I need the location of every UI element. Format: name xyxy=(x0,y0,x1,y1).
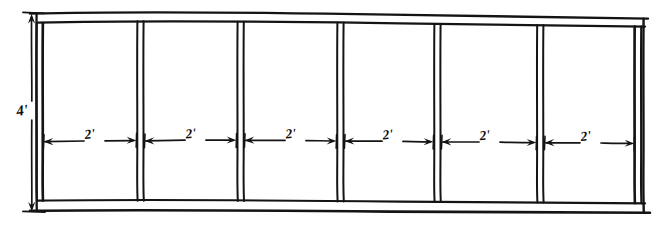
bay-dimension-label-4: 2' xyxy=(381,126,394,142)
height-dimension-line: 4' xyxy=(14,12,45,212)
bay-dimension-label-5: 2' xyxy=(478,127,491,143)
bay-dimension-4: 2' xyxy=(344,126,433,149)
frame-elevation-diagram: 4' 2' 2' xyxy=(0,0,659,225)
diagram-canvas: 4' 2' 2' xyxy=(0,0,659,225)
bay-dimension-label-3: 2' xyxy=(284,126,297,142)
frame-top-rail xyxy=(30,12,648,26)
bay-dimension-3: 2' xyxy=(244,126,336,149)
bay-dimension-2: 2' xyxy=(144,125,236,147)
mullion-2 xyxy=(137,21,144,201)
bay-dimension-1: 2' xyxy=(43,126,136,148)
bay-dimension-label-6: 2' xyxy=(579,128,592,144)
height-dimension-label: 4' xyxy=(14,102,29,120)
frame-bottom-rail xyxy=(30,200,650,213)
bay-dimension-6: 2' xyxy=(544,128,634,150)
mullion-3 xyxy=(237,22,244,201)
mullion-5 xyxy=(434,24,441,202)
mullion-6 xyxy=(537,25,544,202)
mullion-1 xyxy=(37,23,44,201)
bay-dimension-label-1: 2' xyxy=(83,126,96,142)
bay-dimension-5: 2' xyxy=(441,127,536,150)
mullion-7 xyxy=(635,26,642,203)
bay-dimension-label-2: 2' xyxy=(184,125,197,141)
mullion-4 xyxy=(337,23,344,202)
